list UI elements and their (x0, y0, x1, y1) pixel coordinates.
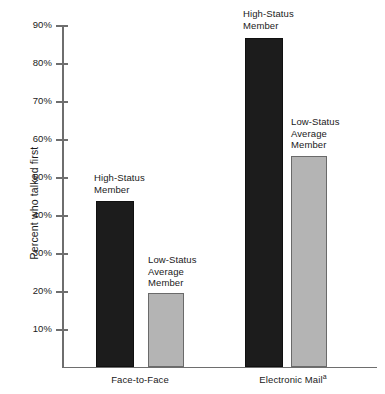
y-tick-90 (56, 25, 68, 27)
y-tick-label-30: 30% (12, 247, 52, 258)
y-tick-label-50: 50% (12, 171, 52, 182)
category-label-face-to-face: Face-to-Face (80, 374, 200, 385)
bar-annotation-email-low: Low-Status Average Member (291, 116, 340, 151)
y-tick-20 (56, 291, 68, 293)
category-label-face-to-face-text: Face-to-Face (111, 374, 169, 385)
bar-chart: Percent who talked first 90% 80% 70% 60%… (0, 0, 385, 394)
y-tick-label-20: 20% (12, 285, 52, 296)
y-tick-30 (56, 253, 68, 255)
y-tick-label-70: 70% (12, 95, 52, 106)
y-tick-80 (56, 63, 68, 65)
y-tick-10 (56, 329, 68, 331)
y-tick-label-90: 90% (12, 19, 52, 30)
y-tick-60 (56, 139, 68, 141)
y-tick-70 (56, 101, 68, 103)
y-tick-label-40: 40% (12, 209, 52, 220)
bar-ftf-high-status (96, 201, 134, 367)
bar-annotation-ftf-low: Low-Status Average Member (148, 254, 197, 289)
y-tick-label-10: 10% (12, 323, 52, 334)
bar-annotation-ftf-high: High-Status Member (94, 172, 145, 195)
bar-annotation-email-high: High-Status Member (243, 8, 294, 31)
category-label-electronic-mail-text: Electronic Mail (259, 374, 322, 385)
bar-email-high-status (245, 38, 283, 367)
bar-ftf-low-status (148, 293, 184, 367)
y-axis-line (62, 25, 64, 368)
y-tick-40 (56, 215, 68, 217)
footnote-marker-a: a (323, 373, 327, 380)
category-label-electronic-mail: Electronic Maila (228, 374, 358, 385)
y-tick-50 (56, 177, 68, 179)
y-tick-label-60: 60% (12, 133, 52, 144)
y-tick-label-80: 80% (12, 57, 52, 68)
bar-email-low-status (291, 156, 327, 367)
